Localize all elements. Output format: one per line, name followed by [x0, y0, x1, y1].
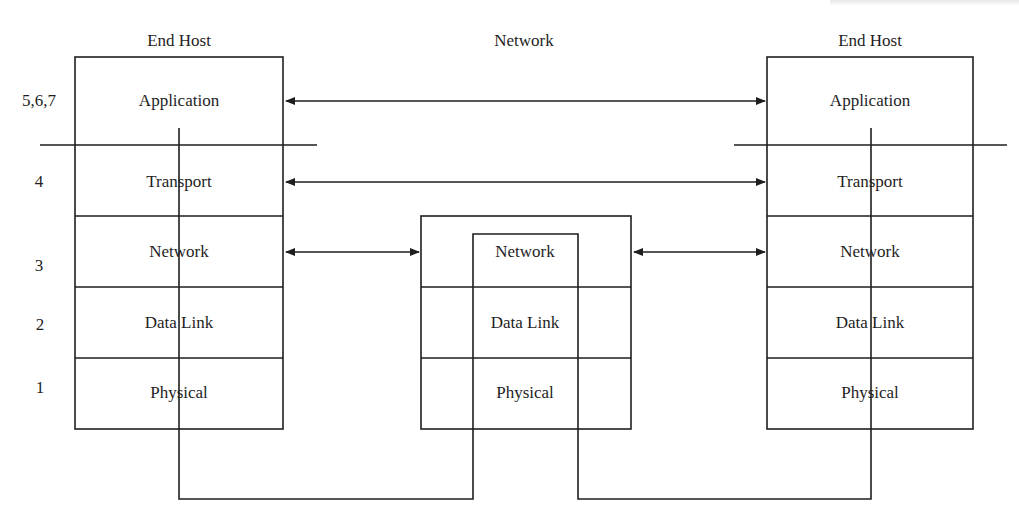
layer-number: 2 — [36, 315, 45, 335]
layer-number: 3 — [35, 256, 44, 276]
left-layer-application: Application — [139, 91, 219, 111]
right-host-header: End Host — [838, 31, 902, 51]
right-layer-datalink: Data Link — [836, 313, 904, 333]
network-header: Network — [494, 31, 553, 51]
router-layer-physical: Physical — [496, 383, 554, 403]
layer-number: 1 — [36, 378, 45, 398]
layer-number: 4 — [35, 172, 44, 192]
left-layer-physical: Physical — [150, 383, 208, 403]
layer-number: 5,6,7 — [22, 91, 56, 111]
right-layer-physical: Physical — [841, 383, 899, 403]
right-layer-application: Application — [830, 91, 910, 111]
left-layer-datalink: Data Link — [145, 313, 213, 333]
router-layer-network: Network — [495, 242, 554, 262]
left-host-header: End Host — [147, 31, 211, 51]
left-layer-transport: Transport — [146, 172, 212, 192]
right-layer-transport: Transport — [837, 172, 903, 192]
right-layer-network: Network — [840, 242, 899, 262]
left-layer-network: Network — [149, 242, 208, 262]
router-layer-datalink: Data Link — [491, 313, 559, 333]
